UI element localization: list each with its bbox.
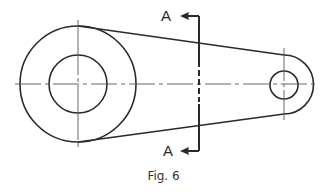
section-arrow-top-icon (180, 12, 189, 20)
section-label-top: A (161, 8, 171, 23)
section-label-bottom: A (163, 143, 173, 158)
arm-top-edge (78, 26, 284, 55)
arm-bottom-edge (78, 114, 284, 142)
section-arrow-bottom-icon (180, 147, 189, 155)
technical-drawing (0, 0, 327, 192)
figure-caption: Fig. 6 (0, 169, 327, 183)
